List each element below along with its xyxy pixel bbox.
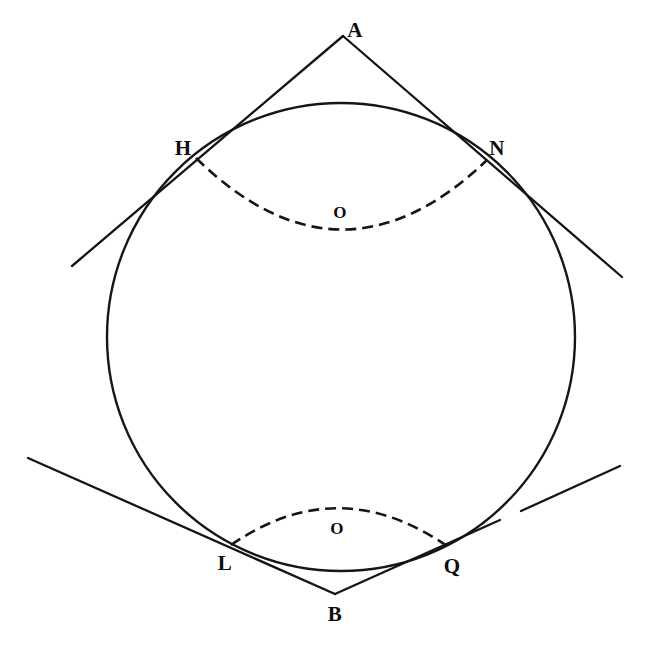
point-label-o-upper: O	[333, 204, 347, 221]
point-label-o-lower: O	[330, 520, 344, 537]
point-label-l: L	[218, 553, 232, 574]
tangent-line-b-q-extension	[521, 466, 620, 511]
point-label-a: A	[347, 20, 362, 41]
point-label-n: N	[489, 138, 504, 159]
main-circle	[107, 103, 575, 571]
point-label-q: Q	[444, 556, 461, 577]
point-label-b: B	[328, 604, 342, 625]
figure-canvas	[0, 0, 647, 667]
geometry-figure: A H N O L Q O B	[0, 0, 647, 667]
tangent-line-b-l	[28, 458, 335, 594]
tangent-line-a-h	[72, 36, 343, 266]
tangent-line-a-n	[343, 36, 622, 277]
tangent-line-b-q	[335, 520, 500, 594]
point-label-h: H	[175, 138, 192, 159]
